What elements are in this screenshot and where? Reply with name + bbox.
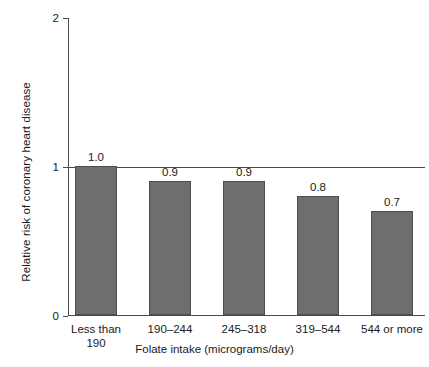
x-tick-label-line1: 544 or more (340, 322, 429, 336)
bar-rect[interactable] (297, 196, 339, 315)
x-axis-baseline (68, 315, 425, 316)
y-tick-1: 1 (68, 167, 69, 168)
y-tick-2: 2 (68, 18, 69, 19)
x-tick-label-4: 544 or more (340, 322, 429, 336)
bar-value-label: 0.9 (149, 166, 191, 178)
y-tick-mark-0 (63, 316, 68, 317)
bar-rect[interactable] (223, 181, 265, 315)
x-axis-title: Folate intake (micrograms/day) (0, 343, 429, 355)
y-tick-label-0: 0 (53, 310, 59, 322)
y-tick-mark-2 (63, 18, 68, 19)
bar-value-label: 0.9 (223, 166, 265, 178)
bar-chart-figure: Relative risk of coronary heart disease … (0, 0, 429, 367)
bar-value-label: 0.7 (371, 196, 413, 208)
bar-value-label: 0.8 (297, 181, 339, 193)
bar-value-label: 1.0 (75, 151, 117, 163)
bar-rect[interactable] (75, 166, 117, 315)
bar-rect[interactable] (149, 181, 191, 315)
y-tick-label-2: 2 (53, 12, 59, 24)
plot-area: 2 1 0 1.0 0.9 0.9 0.8 0.7 (68, 18, 425, 316)
bar-rect[interactable] (371, 211, 413, 315)
y-tick-mark-1 (63, 167, 68, 168)
y-tick-0: 0 (68, 316, 69, 317)
y-tick-label-1: 1 (53, 161, 59, 173)
y-axis-title: Relative risk of coronary heart disease (20, 52, 32, 312)
